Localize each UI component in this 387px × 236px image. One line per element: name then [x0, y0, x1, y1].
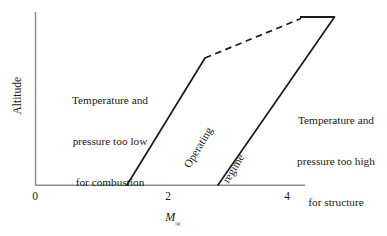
lower-mach-limit-dashed-line — [205, 19, 301, 59]
y-axis-title: Altitude — [11, 61, 24, 131]
left-region-line-1: Temperature and — [56, 94, 164, 108]
left-region-line-2: pressure too low — [56, 135, 164, 149]
right-region-line-3: for structure — [286, 196, 386, 210]
operating-regime-line-1: Operating — [170, 107, 226, 188]
left-region-line-3: for combustion — [56, 176, 164, 190]
x-axis-title-subscript: ∞ — [175, 219, 180, 228]
flight-corridor-figure: Altitude 0 2 4 M∞ Temperature and pressu… — [0, 0, 387, 236]
right-region-annotation: Temperature and pressure too high for st… — [286, 86, 386, 236]
operating-regime-line-2: regime — [206, 128, 262, 209]
right-region-line-1: Temperature and — [286, 114, 386, 128]
left-region-annotation: Temperature and pressure too low for com… — [56, 66, 164, 218]
x-tick-label-0: 0 — [23, 190, 47, 203]
right-region-line-2: pressure too high — [286, 155, 386, 169]
x-axis-title-symbol: M — [165, 210, 175, 224]
